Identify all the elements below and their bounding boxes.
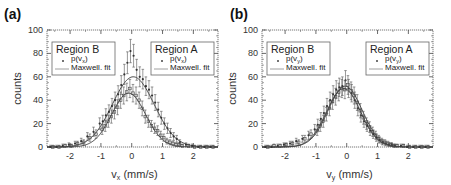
data-point <box>105 114 107 116</box>
x-tick-label: -1 <box>97 151 105 161</box>
data-point <box>86 135 88 137</box>
y-tick-label: 80 <box>33 48 43 58</box>
y-tick-label: 60 <box>248 72 258 82</box>
data-point <box>166 127 168 129</box>
x-tick-label: 1 <box>160 151 165 161</box>
legend-line-label: Maxwell. fit <box>71 63 111 72</box>
data-point <box>111 105 113 107</box>
data-point <box>295 140 297 142</box>
data-point <box>102 120 104 122</box>
y-tick-label: 0 <box>38 142 43 152</box>
data-point <box>132 55 134 57</box>
panel-b-label: (b) <box>230 6 248 22</box>
data-point <box>173 135 175 137</box>
data-point <box>117 93 119 95</box>
y-tick-label: 0 <box>253 142 258 152</box>
legend-line-label: Maxwell. fit <box>286 63 326 72</box>
data-point <box>307 134 309 136</box>
data-point <box>74 142 76 144</box>
y-tick-label: 40 <box>33 95 43 105</box>
x-axis-title: vx (mm/s) <box>111 168 157 181</box>
y-axis-title: counts <box>11 72 23 105</box>
y-tick-label: 20 <box>33 119 43 129</box>
data-point <box>185 144 187 146</box>
legend-marker-icon <box>161 60 163 62</box>
data-point <box>145 85 147 87</box>
legend-marker-icon <box>277 60 279 62</box>
data-point <box>314 128 316 130</box>
data-point <box>136 69 138 71</box>
data-point <box>114 99 116 101</box>
legend-region-b: Region Bp(vy)Maxwell. fit <box>267 42 330 75</box>
data-point <box>99 123 101 125</box>
legend-line-label: Maxwell. fit <box>170 63 210 72</box>
x-tick-label: 2 <box>191 151 196 161</box>
data-point <box>323 112 325 114</box>
x-tick-label: -1 <box>312 151 320 161</box>
maxwell-fit-curve <box>262 89 433 147</box>
data-point <box>289 142 291 144</box>
data-point <box>283 144 285 146</box>
x-axis-title: vy (mm/s) <box>326 168 372 182</box>
x-tick-label: 2 <box>406 151 411 161</box>
data-point <box>120 84 122 86</box>
data-point <box>169 132 171 134</box>
data-point <box>68 144 70 146</box>
legend-marker-icon <box>62 60 64 62</box>
y-tick-label: 60 <box>33 72 43 82</box>
x-tick-label: 1 <box>375 151 380 161</box>
data-point <box>80 140 82 142</box>
data-point <box>160 117 162 119</box>
maxwell-fit-curve <box>47 77 218 147</box>
y-axis-title: counts <box>226 72 238 105</box>
x-tick-label: 0 <box>129 151 134 161</box>
data-point <box>92 131 94 133</box>
data-point <box>320 118 322 120</box>
legend-region-b: Region Bp(vx)Maxwell. fit <box>52 42 115 75</box>
data-point <box>108 111 110 113</box>
x-tick-label: -2 <box>281 151 289 161</box>
panel-a: 020406080100-2-1012countsvx (mm/s)Region… <box>0 0 225 185</box>
legend-region-a: Region Ap(vy)Maxwell. fit <box>366 42 429 75</box>
chart-a-plot: 020406080100-2-1012countsvx (mm/s)Region… <box>0 0 225 185</box>
data-point <box>301 138 303 140</box>
chart-b-plot: 020406080100-2-1012countsvy (mm/s)Region… <box>225 0 451 185</box>
data-point <box>126 62 128 64</box>
data-point <box>142 78 144 80</box>
panel-b: 020406080100-2-1012countsvy (mm/s)Region… <box>225 0 450 185</box>
panel-a-label: (a) <box>4 6 21 22</box>
y-tick-label: 20 <box>248 119 258 129</box>
x-tick-label: -2 <box>66 151 74 161</box>
data-point <box>123 73 125 75</box>
x-tick-label: 0 <box>344 151 349 161</box>
data-point <box>154 101 156 103</box>
data-point <box>129 50 131 52</box>
data-point <box>163 123 165 125</box>
maxwell-fit-curve <box>262 86 433 147</box>
y-tick-label: 80 <box>248 48 258 58</box>
data-point <box>148 89 150 91</box>
y-tick-label: 40 <box>248 95 258 105</box>
data-point <box>157 108 159 110</box>
data-point <box>176 138 178 140</box>
data-series <box>262 71 433 149</box>
data-point <box>139 76 141 78</box>
legend-marker-icon <box>376 60 378 62</box>
legend-line-label: Maxwell. fit <box>385 63 425 72</box>
y-tick-label: 100 <box>243 25 258 35</box>
data-point <box>151 94 153 96</box>
legend-region-a: Region Ap(vx)Maxwell. fit <box>151 42 214 75</box>
y-tick-label: 100 <box>28 25 43 35</box>
maxwell-fit-curve <box>47 93 218 147</box>
data-point <box>326 105 328 107</box>
